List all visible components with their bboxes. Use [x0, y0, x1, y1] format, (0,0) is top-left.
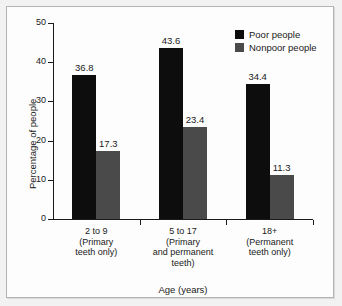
legend-item-label: Poor people — [249, 29, 300, 40]
x-category-label-line: and permanent — [140, 247, 227, 258]
y-tick-mark — [48, 23, 53, 24]
x-tick-mark — [313, 220, 314, 225]
bar-value-label: 11.3 — [273, 162, 291, 173]
x-axis-title: Age (years) — [53, 284, 313, 295]
y-axis-line — [53, 23, 54, 220]
bar-value-label: 23.4 — [186, 114, 205, 125]
x-category-label-line: teeth) — [140, 258, 227, 269]
x-tick-mark — [140, 220, 141, 225]
x-category-label-line: teeth only) — [226, 247, 313, 258]
legend-item[interactable]: Nonpoor people — [235, 42, 317, 53]
x-category-label-line: 18+ — [226, 226, 313, 237]
bar-value-label: 36.8 — [75, 62, 94, 73]
bar[interactable]: 34.4 — [246, 84, 270, 219]
legend-item[interactable]: Poor people — [235, 29, 317, 40]
y-tick-label: 0 — [41, 213, 46, 224]
x-category-label-line: teeth only) — [53, 247, 140, 258]
x-category-label: 5 to 17(Primaryand permanentteeth) — [140, 226, 227, 268]
bar[interactable]: 43.6 — [159, 48, 183, 219]
legend-item-label: Nonpoor people — [249, 42, 317, 53]
bar[interactable]: 11.3 — [270, 175, 294, 219]
y-tick-label: 40 — [36, 56, 46, 67]
legend-swatch-icon — [235, 30, 244, 39]
y-tick-label: 10 — [36, 174, 46, 185]
x-category-label-line: (Primary — [53, 237, 140, 248]
y-tick-label: 30 — [36, 95, 46, 106]
x-axis-title-text: Age (years) — [158, 284, 207, 295]
y-axis-title: Percentage of people — [15, 59, 29, 189]
bar[interactable]: 23.4 — [183, 127, 207, 219]
x-category-label-line: 5 to 17 — [140, 226, 227, 237]
bar[interactable]: 17.3 — [96, 151, 120, 219]
x-category-label: 18+(Permanentteeth only) — [226, 226, 313, 258]
bar-value-label: 34.4 — [248, 71, 267, 82]
x-category-label-line: 2 to 9 — [53, 226, 140, 237]
legend-swatch-icon — [235, 43, 244, 52]
y-tick-label: 20 — [36, 135, 46, 146]
bar[interactable]: 36.8 — [72, 75, 96, 219]
y-tick-mark — [48, 219, 53, 220]
x-category-label-line: (Primary — [140, 237, 227, 248]
figure-frame: Percentage of people 01020304050 36.817.… — [6, 6, 334, 298]
x-category-label-line: (Permanent — [226, 237, 313, 248]
y-tick-mark — [48, 141, 53, 142]
y-tick-mark — [48, 101, 53, 102]
x-category-label: 2 to 9(Primaryteeth only) — [53, 226, 140, 258]
y-tick-mark — [48, 62, 53, 63]
bar-value-label: 17.3 — [99, 138, 118, 149]
bar-value-label: 43.6 — [162, 35, 181, 46]
y-tick-label: 50 — [36, 17, 46, 28]
x-axis-line — [53, 219, 313, 220]
x-tick-mark — [226, 220, 227, 225]
y-tick-mark — [48, 180, 53, 181]
chart-legend: Poor peopleNonpoor people — [235, 29, 317, 55]
